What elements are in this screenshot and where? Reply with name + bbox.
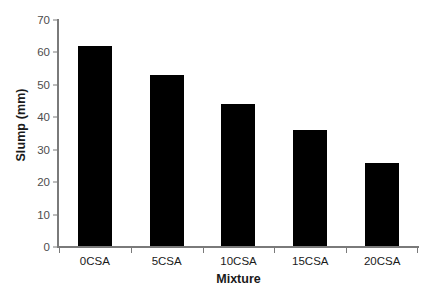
bar-slot (59, 20, 131, 247)
bar[interactable] (365, 163, 399, 247)
y-axis-tick-label: 0 (44, 241, 50, 253)
x-axis-tick-mark (417, 248, 418, 253)
y-axis-tick-label: 40 (37, 111, 50, 123)
bar-slot (274, 20, 346, 247)
y-axis-tick-label: 60 (37, 46, 50, 58)
y-axis-tick-label: 30 (37, 144, 50, 156)
x-axis-tick-label: 0CSA (80, 255, 110, 267)
x-axis-tick-mark (203, 248, 204, 253)
x-axis-tick-labels: 0CSA5CSA10CSA15CSA20CSA (59, 255, 418, 271)
x-axis-tick-marks (59, 248, 418, 254)
x-axis-tick-label: 20CSA (364, 255, 400, 267)
x-axis-tick-label: 10CSA (220, 255, 256, 267)
bar[interactable] (221, 104, 255, 247)
bar[interactable] (78, 46, 112, 247)
y-axis-tick-label: 70 (37, 14, 50, 26)
y-axis-tick-labels: 010203040506070 (26, 20, 50, 247)
plot-area (59, 20, 418, 247)
x-axis-tick-label: 5CSA (152, 255, 182, 267)
bar-slot (203, 20, 275, 247)
x-axis-tick-mark (346, 248, 347, 253)
bar-chart-figure: Slump (mm) 010203040506070 0CSA5CSA10CSA… (0, 0, 440, 296)
x-axis-tick-mark (59, 248, 60, 253)
x-axis-tick-mark (274, 248, 275, 253)
x-axis-tick-mark (131, 248, 132, 253)
x-axis-title: Mixture (59, 272, 418, 286)
bar[interactable] (150, 75, 184, 247)
bar-slot (346, 20, 418, 247)
bar-slot (131, 20, 203, 247)
bar[interactable] (293, 130, 327, 247)
y-axis-tick-label: 50 (37, 79, 50, 91)
y-axis-tick-label: 10 (37, 209, 50, 221)
y-axis-tick-label: 20 (37, 176, 50, 188)
x-axis-tick-label: 15CSA (292, 255, 328, 267)
